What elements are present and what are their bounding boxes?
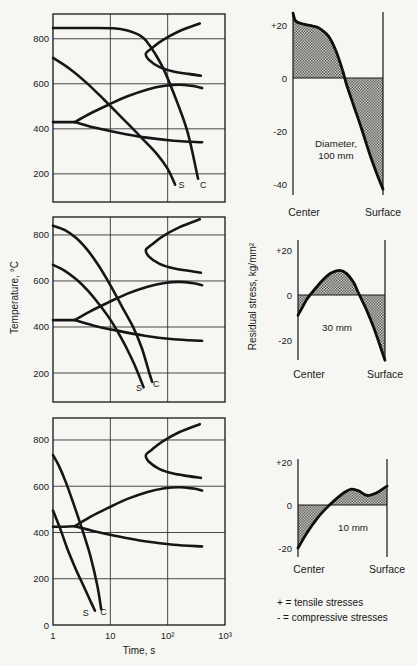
svg-text:Center: Center — [293, 563, 325, 575]
svg-text:10: 10 — [105, 630, 116, 641]
svg-text:400: 400 — [33, 321, 49, 332]
svg-text:Surface: Surface — [369, 563, 405, 575]
svg-text:200: 200 — [33, 368, 49, 379]
svg-text:C: C — [100, 607, 107, 617]
svg-text:Surface: Surface — [365, 206, 401, 218]
svg-text:800: 800 — [33, 33, 49, 44]
figure-cooling-and-residual-stress: 200400600800SC 200400600800SC 0200400600… — [0, 0, 417, 666]
svg-text:C: C — [153, 379, 160, 389]
svg-text:-20: -20 — [273, 126, 287, 137]
svg-text:Time, s: Time, s — [123, 645, 155, 656]
temperature-time-plot-100mm: 200400600800SC — [20, 6, 235, 208]
svg-text:1: 1 — [50, 630, 55, 641]
svg-text:Center: Center — [288, 206, 320, 218]
svg-text:0: 0 — [287, 500, 292, 511]
svg-text:0: 0 — [287, 290, 292, 301]
svg-text:600: 600 — [33, 275, 49, 286]
svg-text:-20: -20 — [278, 335, 292, 346]
svg-text:S: S — [136, 383, 142, 393]
svg-text:-20: -20 — [278, 543, 292, 554]
residual-stress-plot-100mm: +200-20-40Diameter,100 mmCenterSurface — [255, 4, 417, 222]
svg-text:10²: 10² — [161, 630, 175, 641]
temperature-time-plot-10mm: 0200400600800SC11010²10³Time, s — [20, 410, 235, 666]
svg-text:0: 0 — [282, 73, 287, 84]
svg-text:800: 800 — [33, 434, 49, 445]
svg-text:400: 400 — [33, 123, 49, 134]
legend-compressive: - = compressive stresses — [277, 610, 388, 625]
residual-stress-axis-label: Residual stress, kg/mm² — [247, 222, 258, 372]
stress-sign-legend: + = tensile stresses - = compressive str… — [277, 595, 388, 625]
svg-text:S: S — [83, 608, 89, 618]
svg-text:200: 200 — [33, 168, 49, 179]
svg-text:600: 600 — [33, 481, 49, 492]
svg-text:0: 0 — [44, 620, 49, 631]
svg-text:600: 600 — [33, 78, 49, 89]
svg-text:-40: -40 — [273, 179, 287, 190]
svg-text:+20: +20 — [271, 20, 287, 31]
svg-text:C: C — [200, 180, 207, 190]
svg-text:S: S — [178, 180, 184, 190]
temperature-axis-label: Temperature, °C — [9, 223, 20, 373]
temperature-time-plot-30mm: 200400600800SC — [20, 210, 235, 410]
svg-text:100 mm: 100 mm — [318, 150, 353, 161]
svg-text:800: 800 — [33, 229, 49, 240]
residual-stress-plot-30mm: +200-2030 mmCenterSurface — [255, 232, 417, 384]
svg-text:+20: +20 — [276, 457, 292, 468]
svg-text:10³: 10³ — [218, 630, 232, 641]
svg-text:+20: +20 — [276, 245, 292, 256]
svg-text:Diameter,: Diameter, — [315, 138, 357, 149]
svg-text:30 mm: 30 mm — [322, 322, 352, 333]
svg-text:400: 400 — [33, 527, 49, 538]
svg-text:Surface: Surface — [367, 368, 403, 380]
svg-text:Center: Center — [293, 368, 325, 380]
legend-tensile: + = tensile stresses — [277, 595, 388, 610]
residual-stress-plot-10mm: +200-2010 mmCenterSurface — [255, 446, 417, 586]
svg-text:200: 200 — [33, 573, 49, 584]
svg-text:10 mm: 10 mm — [338, 522, 368, 533]
